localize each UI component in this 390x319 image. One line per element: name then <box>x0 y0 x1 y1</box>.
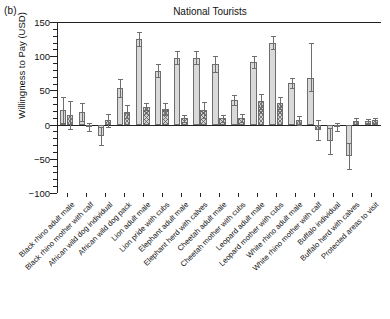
error-bar <box>242 114 243 122</box>
error-bar-cap <box>68 101 73 102</box>
error-bar-cap <box>271 49 276 50</box>
error-bar <box>280 97 281 109</box>
error-bar-cap <box>297 116 302 117</box>
error-bar <box>234 95 235 106</box>
error-bar-cap <box>68 129 73 130</box>
y-tick-minor <box>53 49 57 50</box>
y-tick-label: −50 <box>34 153 50 164</box>
y-tick-label: 150 <box>34 17 50 28</box>
y-tick <box>50 125 57 126</box>
y-tick-minor <box>53 29 57 30</box>
error-bar-cap <box>163 115 168 116</box>
y-tick-minor <box>53 63 57 64</box>
error-bar <box>349 143 350 169</box>
error-bar-cap <box>290 78 295 79</box>
error-bar-cap <box>297 125 302 126</box>
y-tick-minor <box>53 131 57 132</box>
bar <box>155 71 161 125</box>
error-bar <box>273 36 274 50</box>
error-bar-cap <box>175 64 180 65</box>
error-bar-cap <box>271 36 276 37</box>
error-bar <box>120 79 121 97</box>
y-tick-minor <box>53 179 57 180</box>
error-bar <box>292 78 293 88</box>
error-bar <box>299 116 300 124</box>
y-tick <box>50 56 57 57</box>
error-bar-cap <box>347 169 352 170</box>
y-tick-minor <box>53 36 57 37</box>
error-bar-cap <box>144 103 149 104</box>
error-bar-cap <box>213 56 218 57</box>
y-tick-minor <box>53 145 57 146</box>
error-bar-cap <box>221 122 226 123</box>
y-tick-minor <box>53 77 57 78</box>
error-bar-cap <box>354 124 359 125</box>
error-bar <box>337 123 338 131</box>
y-tick-minor <box>53 166 57 167</box>
error-bar-cap <box>328 154 333 155</box>
error-bar <box>165 103 166 115</box>
error-bar-cap <box>259 94 264 95</box>
error-bar-cap <box>347 143 352 144</box>
error-bar-cap <box>182 122 187 123</box>
y-tick-minor <box>53 70 57 71</box>
y-tick <box>50 90 57 91</box>
error-bar-cap <box>309 43 314 44</box>
error-bar-cap <box>335 123 340 124</box>
error-bar-cap <box>309 91 314 92</box>
error-bar-cap <box>118 79 123 80</box>
x-axis-tick-labels: Black rhino adult maleBlack rhino mother… <box>0 196 390 319</box>
error-bar-cap <box>252 56 257 57</box>
chart-figure: (b) National Tourists Willingness to Pay… <box>0 0 390 319</box>
error-bar-cap <box>156 77 161 78</box>
error-bar-cap <box>202 118 207 119</box>
error-bar <box>63 97 64 123</box>
bar <box>193 58 199 125</box>
error-bar-cap <box>316 120 321 121</box>
error-bar <box>223 115 224 122</box>
error-bar-cap <box>106 127 111 128</box>
y-tick-minor <box>53 43 57 44</box>
error-bar-cap <box>202 102 207 103</box>
error-bar-cap <box>106 114 111 115</box>
y-tick <box>50 22 57 23</box>
error-bar-cap <box>278 97 283 98</box>
error-bar-cap <box>373 123 378 124</box>
error-bar-cap <box>137 46 142 47</box>
y-tick-minor <box>53 118 57 119</box>
error-bar <box>204 102 205 118</box>
error-bar-cap <box>240 114 245 115</box>
error-bar <box>330 128 331 154</box>
error-bar <box>127 105 128 117</box>
error-bar-cap <box>99 145 104 146</box>
error-bar-cap <box>335 131 340 132</box>
error-bar-cap <box>221 115 226 116</box>
error-bar-cap <box>125 118 130 119</box>
error-bar-cap <box>156 64 161 65</box>
chart-title: National Tourists <box>110 6 310 17</box>
error-bar <box>89 123 90 131</box>
error-bar-cap <box>232 95 237 96</box>
error-bar <box>177 51 178 63</box>
error-bar-cap <box>182 115 187 116</box>
bar <box>136 39 142 125</box>
error-bar-cap <box>194 51 199 52</box>
error-bar-cap <box>125 105 130 106</box>
error-bar-cap <box>80 121 85 122</box>
error-bar <box>146 103 147 110</box>
error-bar-cap <box>232 105 237 106</box>
bar <box>250 62 256 125</box>
error-bar-cap <box>194 64 199 65</box>
y-axis-tick-labels: 150100500−50−100 <box>0 22 50 193</box>
error-bar-cap <box>354 118 359 119</box>
error-bar-cap <box>278 109 283 110</box>
y-tick-minor <box>53 111 57 112</box>
error-bar <box>82 103 83 121</box>
error-bar-cap <box>137 32 142 33</box>
error-bar-cap <box>144 110 149 111</box>
error-bar-cap <box>328 128 333 129</box>
error-bar-cap <box>373 118 378 119</box>
error-bar-cap <box>290 88 295 89</box>
error-bar <box>158 64 159 78</box>
error-bar <box>101 127 102 145</box>
